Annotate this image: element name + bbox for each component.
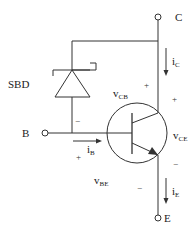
emitter-label: E xyxy=(164,213,171,224)
schottky-bar-right xyxy=(72,63,96,70)
circuit-schematic xyxy=(0,0,195,233)
vbe-label: vBE xyxy=(94,175,108,188)
collector-lead xyxy=(132,113,158,123)
ie-arrowhead-icon xyxy=(164,198,169,204)
emitter-terminal xyxy=(155,215,161,221)
ie-label: iE xyxy=(172,186,179,199)
ic-arrowhead-icon xyxy=(164,70,169,76)
diode-triangle xyxy=(55,70,90,97)
vbe-plus-sign: + xyxy=(76,153,81,162)
vce-minus-sign: − xyxy=(173,160,178,169)
sbd-label: SBD xyxy=(8,79,29,90)
sbd-clamped-bjt-diagram: C B E SBD iC iB iE vCB vCE vBE + + − + −… xyxy=(0,0,195,233)
base-label: B xyxy=(22,128,29,139)
vcb-plus-sign: + xyxy=(144,81,149,90)
vcb-label: vCB xyxy=(113,88,128,101)
base-terminal xyxy=(42,130,48,136)
vbe-minus-sign: − xyxy=(137,184,142,193)
ic-label: iC xyxy=(172,56,180,69)
collector-terminal xyxy=(155,14,161,20)
collector-label: C xyxy=(175,12,182,23)
ib-label: iB xyxy=(87,144,95,157)
vcb-minus-sign: − xyxy=(75,117,80,126)
vce-plus-sign: + xyxy=(172,95,177,104)
vce-label: vCE xyxy=(173,130,187,143)
ib-arrowhead-icon xyxy=(96,139,102,144)
